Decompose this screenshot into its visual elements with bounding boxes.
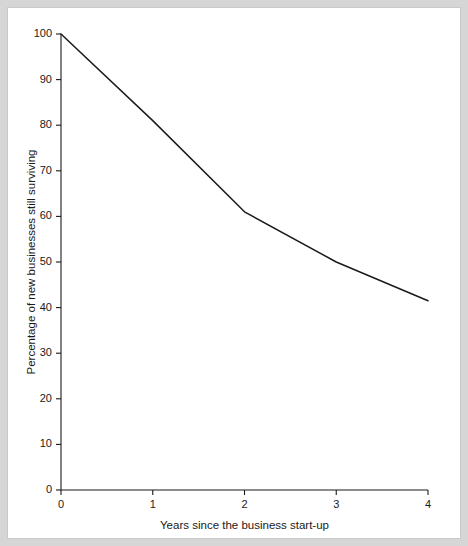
y-tick-label: 80 xyxy=(40,119,52,130)
y-tick-label: 70 xyxy=(40,165,52,176)
x-tick-label: 3 xyxy=(316,499,356,510)
y-tick-label: 30 xyxy=(40,347,52,358)
x-tick-label: 2 xyxy=(225,499,265,510)
y-tick-label: 100 xyxy=(34,28,52,39)
y-tick-label: 20 xyxy=(40,393,52,404)
y-tick-label: 40 xyxy=(40,302,52,313)
y-tick-label: 0 xyxy=(46,484,52,495)
x-tick-label: 4 xyxy=(408,499,448,510)
y-tick-label: 10 xyxy=(40,438,52,449)
x-axis-ticks xyxy=(61,490,428,495)
x-axis-title: Years since the business start-up xyxy=(61,520,428,532)
chart-panel: 0102030405060708090100 01234 Percentage … xyxy=(8,8,460,538)
y-axis-ticks xyxy=(56,34,61,490)
y-axis-title: Percentage of new businesses still survi… xyxy=(26,149,38,374)
x-tick-label: 1 xyxy=(133,499,173,510)
y-tick-label: 90 xyxy=(40,74,52,85)
line-chart-svg xyxy=(8,8,460,538)
y-tick-label: 60 xyxy=(40,210,52,221)
y-tick-label: 50 xyxy=(40,256,52,267)
chart-page: 0102030405060708090100 01234 Percentage … xyxy=(0,0,468,546)
survival-rate-line xyxy=(61,34,428,301)
x-tick-label: 0 xyxy=(41,499,81,510)
axes xyxy=(61,34,428,490)
